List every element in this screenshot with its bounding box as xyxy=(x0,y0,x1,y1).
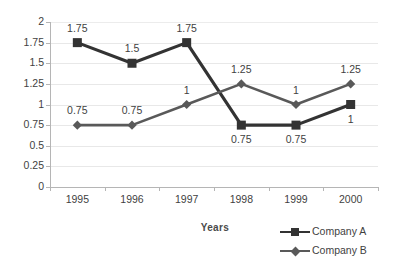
data-point-label: 1 xyxy=(293,85,299,96)
data-point-marker xyxy=(182,100,191,109)
legend-key-company-a-icon xyxy=(280,226,310,238)
data-point-marker xyxy=(128,59,137,68)
legend-label-company-b: Company B xyxy=(312,245,367,256)
legend-item-company-a[interactable]: Company A xyxy=(280,222,367,241)
legend-key-company-b-icon xyxy=(280,245,310,257)
legend-item-company-b[interactable]: Company B xyxy=(280,241,367,260)
data-point-marker xyxy=(291,100,300,109)
data-point-marker xyxy=(292,121,301,130)
data-point-label: 1 xyxy=(184,85,190,96)
data-point-label: 0.75 xyxy=(231,134,251,145)
data-point-label: 0.75 xyxy=(67,105,87,116)
series-line-company-a xyxy=(77,43,350,126)
data-point-marker xyxy=(127,121,136,130)
legend-label-company-a: Company A xyxy=(312,226,366,237)
data-point-label: 0.75 xyxy=(122,105,142,116)
data-point-label: 1.75 xyxy=(67,23,87,34)
data-point-marker xyxy=(346,79,355,88)
data-point-label: 1.75 xyxy=(176,23,196,34)
data-point-marker xyxy=(346,100,355,109)
data-point-label: 1.5 xyxy=(125,43,140,54)
data-point-label: 1 xyxy=(348,114,354,125)
data-point-marker xyxy=(73,38,82,47)
chart-legend: Company A Company B xyxy=(280,222,367,260)
data-point-label: 1.25 xyxy=(340,64,360,75)
data-point-marker xyxy=(237,79,246,88)
line-chart: 00.250.50.7511.251.51.752 19951996199719… xyxy=(0,0,396,268)
data-point-marker xyxy=(182,38,191,47)
data-point-marker xyxy=(237,121,246,130)
data-point-marker xyxy=(73,121,82,130)
data-point-label: 0.75 xyxy=(286,134,306,145)
data-point-label: 1.25 xyxy=(231,64,251,75)
